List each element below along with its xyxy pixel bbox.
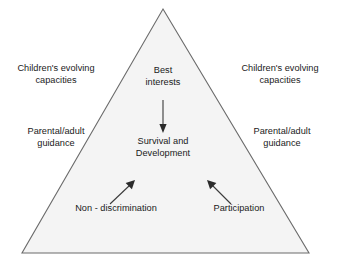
label-left-childrens-evolving-capacities: Children's evolving capacities — [4, 63, 108, 86]
label-survival-and-development: Survival and Development — [113, 136, 213, 159]
label-left-parental-adult-guidance: Parental/adult guidance — [6, 126, 106, 149]
diagram-canvas: Children's evolving capacities Parental/… — [0, 0, 337, 263]
label-best-interests: Best interests — [121, 65, 205, 88]
label-right-childrens-evolving-capacities: Children's evolving capacities — [228, 63, 332, 86]
label-non-discrimination: Non - discrimination — [58, 203, 174, 215]
label-participation: Participation — [198, 203, 280, 215]
label-right-parental-adult-guidance: Parental/adult guidance — [232, 126, 332, 149]
